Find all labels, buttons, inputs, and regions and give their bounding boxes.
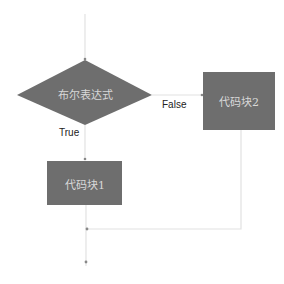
- code-block-2-label: 代码块2: [219, 93, 259, 109]
- false-branch-label: False: [162, 99, 186, 110]
- flowchart-diagram: 布尔表达式 代码块2 代码块1 False True: [0, 0, 284, 284]
- condition-label: 布尔表达式: [58, 86, 113, 102]
- code-block-1-label: 代码块1: [65, 176, 105, 192]
- merge-point-icon: [86, 228, 89, 231]
- arrow-head-icon: [84, 58, 87, 61]
- arrow-head-icon: [201, 94, 204, 97]
- arrow-head-icon: [84, 158, 87, 161]
- flowchart-svg: [0, 0, 284, 284]
- arrow-head-icon: [85, 261, 88, 264]
- true-branch-label: True: [59, 127, 79, 138]
